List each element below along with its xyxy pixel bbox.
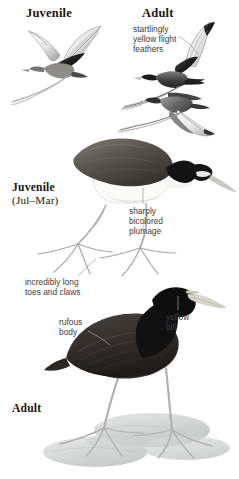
- label-adult-in-flight: Adult: [142, 6, 174, 21]
- leader-long-toes: [78, 259, 96, 276]
- annotation-long-toes: incredibly long toes and claws: [25, 277, 80, 297]
- label-adult-standing: Adult: [12, 402, 41, 415]
- label-juvenile-standing: Juvenile: [12, 181, 55, 194]
- illustration-plate: Juvenile Adult Juvenile (Jul–Mar) Adult …: [0, 0, 239, 479]
- figure-juvenile-in-flight: [11, 26, 101, 105]
- annotation-yellow-bill: yellow bill: [166, 312, 189, 332]
- annotation-rufous-body: rufous body: [59, 317, 82, 337]
- leader-flight-feathers: [178, 36, 198, 54]
- lily-pads: [43, 413, 230, 467]
- figure-adult-in-flight-lower: [118, 93, 215, 136]
- leader-rufous-body: [88, 331, 110, 345]
- label-juvenile-in-flight: Juvenile: [26, 6, 72, 21]
- annotation-bicolored-plumage: sharply bicolored plumage: [129, 206, 163, 237]
- label-juvenile-standing-months: (Jul–Mar): [12, 194, 59, 206]
- annotation-flight-feathers: startlingly yellow flight feathers: [133, 24, 176, 55]
- figure-adult-standing: [43, 287, 230, 467]
- annotation-leader-lines: [78, 36, 198, 345]
